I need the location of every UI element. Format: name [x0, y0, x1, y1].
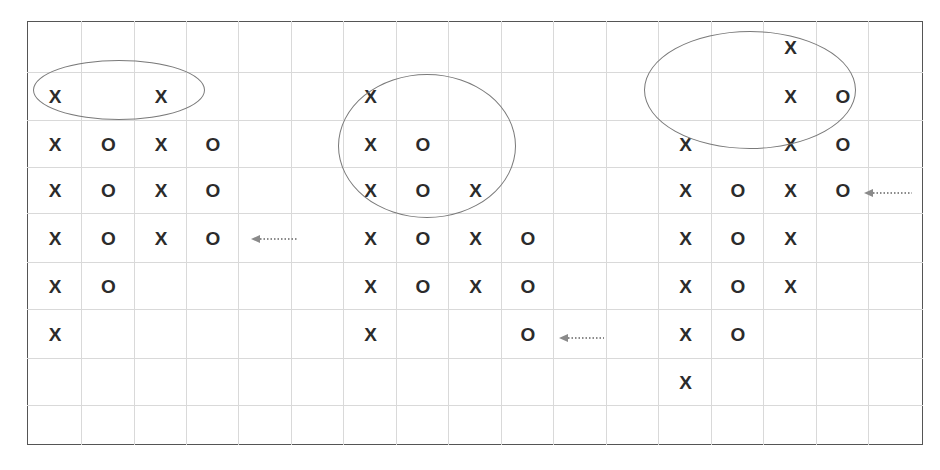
x-box-symbol: X [40, 227, 70, 251]
o-box-symbol: O [513, 323, 543, 347]
o-box-symbol: O [94, 275, 124, 299]
o-box-symbol: O [198, 133, 228, 157]
right-top-highlight-ellipse [644, 31, 856, 149]
x-box-symbol: X [40, 323, 70, 347]
o-box-symbol: O [408, 275, 438, 299]
x-box-symbol: X [40, 275, 70, 299]
o-box-symbol: O [408, 227, 438, 251]
x-box-symbol: X [671, 323, 701, 347]
x-box-symbol: X [146, 227, 176, 251]
x-box-symbol: X [356, 227, 386, 251]
x-box-symbol: X [356, 323, 386, 347]
x-box-symbol: X [776, 179, 806, 203]
o-box-symbol: O [723, 227, 753, 251]
left-arrow-icon [251, 235, 298, 243]
x-box-symbol: X [146, 179, 176, 203]
grid-vline [553, 21, 554, 445]
x-box-symbol: X [671, 227, 701, 251]
o-box-symbol: O [828, 133, 858, 157]
x-box-symbol: X [776, 275, 806, 299]
o-box-symbol: O [723, 275, 753, 299]
grid-vline [868, 21, 869, 445]
left-top-highlight-ellipse [33, 60, 205, 120]
grid-vline [238, 21, 239, 445]
grid-vline [501, 21, 502, 445]
grid-vline [343, 21, 344, 445]
grid-hline [27, 309, 923, 310]
o-box-symbol: O [513, 227, 543, 251]
o-box-symbol: O [723, 323, 753, 347]
middle-highlight-ellipse [338, 74, 516, 218]
grid-hline [27, 358, 923, 359]
x-box-symbol: X [461, 227, 491, 251]
grid-hline [27, 213, 923, 214]
x-box-symbol: X [671, 275, 701, 299]
left-arrow-icon [864, 189, 912, 197]
o-box-symbol: O [828, 179, 858, 203]
o-box-symbol: O [723, 179, 753, 203]
grid-hline [27, 262, 923, 263]
grid-vline [291, 21, 292, 445]
o-box-symbol: O [94, 133, 124, 157]
grid-hline [27, 405, 923, 406]
left-arrow-icon [559, 334, 604, 342]
x-box-symbol: X [40, 133, 70, 157]
x-box-symbol: X [146, 133, 176, 157]
o-box-symbol: O [513, 275, 543, 299]
x-box-symbol: X [356, 275, 386, 299]
o-box-symbol: O [94, 227, 124, 251]
x-box-symbol: X [671, 371, 701, 395]
grid-vline [606, 21, 607, 445]
x-box-symbol: X [40, 179, 70, 203]
x-box-symbol: X [776, 227, 806, 251]
o-box-symbol: O [94, 179, 124, 203]
o-box-symbol: O [198, 227, 228, 251]
x-box-symbol: X [671, 179, 701, 203]
x-box-symbol: X [461, 275, 491, 299]
o-box-symbol: O [198, 179, 228, 203]
